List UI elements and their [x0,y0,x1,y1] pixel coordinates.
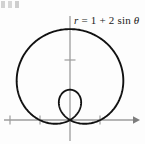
equation-label: r = 1 + 2 sin θ [74,13,139,27]
equation-angle: θ [134,14,140,26]
equation-function: sin [117,14,130,26]
polar-curve-figure: r = 1 + 2 sin θ [0,0,145,144]
arrow-right-icon [133,116,140,124]
axes-group [4,16,140,141]
